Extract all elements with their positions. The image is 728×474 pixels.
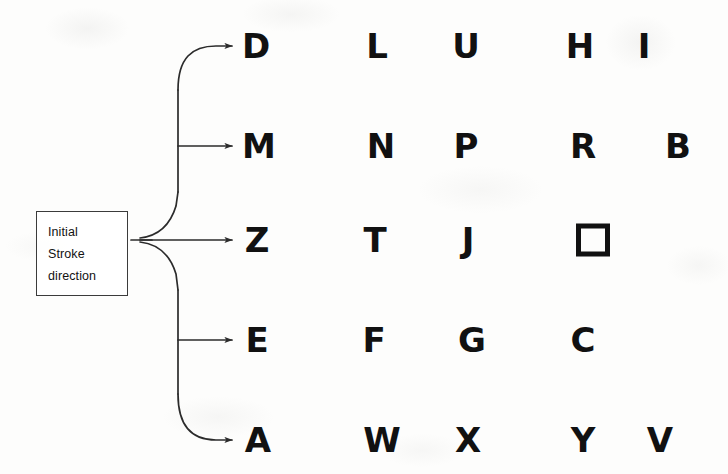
letter-z: Z: [245, 223, 270, 257]
connector-fan-up: [140, 192, 178, 238]
letter-p: P: [454, 129, 479, 163]
letter-u: U: [452, 29, 480, 63]
letter-h: H: [566, 29, 594, 63]
shape-square: [576, 224, 610, 257]
letter-e: E: [245, 323, 268, 357]
letter-j: J: [462, 223, 475, 257]
box-line-2: Stroke: [48, 243, 127, 265]
letter-y: Y: [571, 423, 596, 457]
letter-w: W: [363, 423, 401, 457]
letter-l: L: [366, 29, 388, 63]
letter-r: R: [570, 129, 596, 163]
letter-d: D: [242, 29, 270, 63]
letter-m: M: [242, 129, 276, 163]
connector-row-5: [178, 394, 232, 440]
box-line-3: direction: [48, 265, 127, 287]
stroke-direction-figure: Initial Stroke direction D L U H I M N P…: [0, 0, 728, 474]
letter-i: I: [638, 29, 651, 63]
letter-f: F: [362, 323, 385, 357]
letter-g: G: [458, 323, 486, 357]
box-line-1: Initial: [48, 221, 127, 243]
letter-c: C: [571, 323, 596, 357]
letter-x: X: [455, 423, 481, 457]
letter-v: V: [647, 423, 673, 457]
initial-stroke-direction-box: Initial Stroke direction: [36, 211, 128, 296]
letter-n: N: [367, 129, 395, 163]
connector-fan-down: [140, 242, 178, 290]
letter-a: A: [245, 423, 271, 457]
letter-b: B: [665, 129, 691, 163]
connector-row-1: [178, 46, 232, 90]
letter-t: T: [363, 223, 386, 257]
